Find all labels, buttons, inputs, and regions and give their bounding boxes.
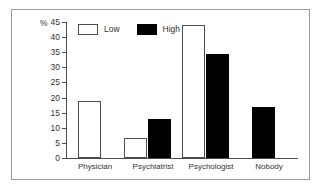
y-axis-tick-mark <box>62 82 66 83</box>
y-axis-tick-label: 45 <box>38 18 60 27</box>
y-axis-tick-label: 25 <box>38 78 60 87</box>
y-axis-tick-label: 40 <box>38 33 60 42</box>
y-axis-tick-label: 15 <box>38 108 60 117</box>
bar-low <box>182 25 205 158</box>
y-axis-tick-mark <box>62 113 66 114</box>
y-axis-tick-mark <box>62 22 66 23</box>
y-axis-tick-label: 30 <box>38 63 60 72</box>
y-axis-tick-label: 5 <box>38 139 60 148</box>
y-axis-tick-mark <box>62 67 66 68</box>
y-axis-line <box>66 22 67 159</box>
y-axis-tick-mark <box>62 52 66 53</box>
bar-low <box>124 138 147 158</box>
x-axis-category-label: Nobody <box>255 163 283 171</box>
plot-area: 051015202530354045 PhysicianPsychiatrist… <box>66 22 298 159</box>
bar-high <box>148 119 171 158</box>
y-axis-tick-mark <box>62 98 66 99</box>
bar-high <box>252 107 275 158</box>
y-axis-tick-mark <box>62 143 66 144</box>
x-axis-category-label: Psychologist <box>189 163 234 171</box>
y-axis-tick-label: 20 <box>38 93 60 102</box>
bar-high <box>206 54 229 158</box>
x-axis-line <box>66 158 298 159</box>
x-axis-category-label: Psychiatrist <box>133 163 174 171</box>
x-axis-category-label: Physician <box>78 163 112 171</box>
figure: % Low High 051015202530354045 PhysicianP… <box>0 0 321 190</box>
y-axis-tick-label: 10 <box>38 124 60 133</box>
y-axis-tick-label: 35 <box>38 48 60 57</box>
y-axis-tick-mark <box>62 128 66 129</box>
y-axis-tick-mark <box>62 37 66 38</box>
y-axis-tick-mark <box>62 158 66 159</box>
y-axis-tick-label: 0 <box>38 154 60 163</box>
bar-low <box>78 101 101 158</box>
